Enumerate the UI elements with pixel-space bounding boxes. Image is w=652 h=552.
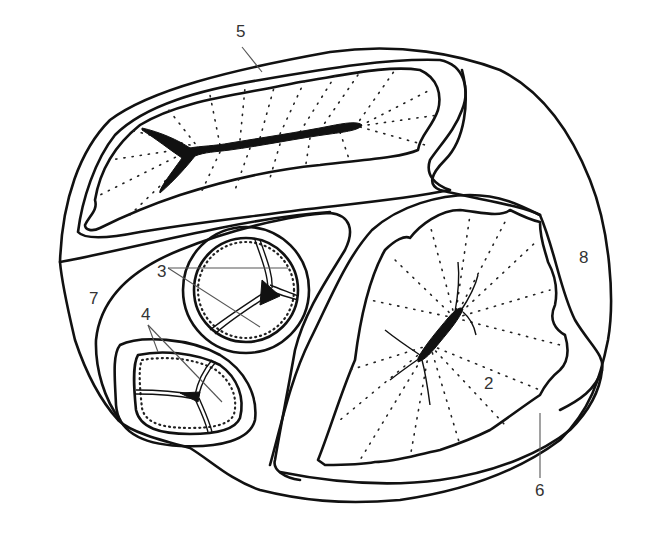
- cavity-2-rays: [385, 262, 478, 405]
- cavity-2-wall: [280, 370, 602, 483]
- heart-cross-section: 5 3 4 7 8 2 6: [0, 0, 652, 552]
- label-5: 5: [236, 22, 245, 41]
- top-cavity: [85, 69, 439, 231]
- label-8: 8: [579, 248, 588, 267]
- label-2: 2: [484, 374, 493, 393]
- label-6: 6: [535, 481, 544, 500]
- label-3: 3: [157, 262, 166, 281]
- outer-outline: [60, 48, 611, 501]
- label-4: 4: [141, 305, 150, 324]
- valve-3-stippling: [198, 242, 294, 338]
- cavity-2-lumen-slit: [418, 308, 463, 362]
- valve-4-cusps: [136, 360, 216, 432]
- label-7: 7: [89, 289, 98, 308]
- leader-3b: [168, 268, 260, 327]
- cavity-2-stippling: [340, 215, 560, 460]
- diagram-canvas: 5 3 4 7 8 2 6: [0, 0, 652, 552]
- valve-region-wall: [96, 213, 350, 480]
